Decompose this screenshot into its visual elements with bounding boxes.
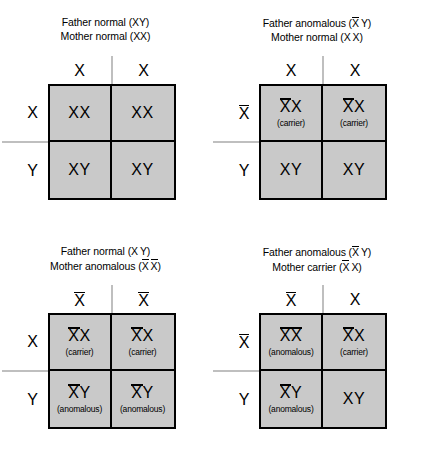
cell-sublabel: (carrier) xyxy=(340,119,368,128)
punnett-square: X X X Y XX (anomalous) XX (carrier) xyxy=(229,287,405,429)
punnett-square: X X X Y XX XX XY xyxy=(18,58,194,200)
column-header-2: X xyxy=(112,287,176,313)
punnett-cell: XY xyxy=(323,371,385,427)
overbar-allele: X xyxy=(68,327,79,344)
cell-genotype: XX xyxy=(280,327,302,344)
row-header-2: Y xyxy=(18,142,48,200)
punnett-cell: XX (carrier) xyxy=(261,86,323,142)
title-mother-line: Mother normal (X X) xyxy=(211,31,423,45)
overbar-allele: X xyxy=(239,334,250,351)
square-body: X Y XX (anomalous) XX (carrier) XY (anom… xyxy=(229,313,405,429)
cell-genotype: XX xyxy=(131,327,153,344)
overbar-allele: X xyxy=(280,384,291,401)
title-father-line: Father anomalous (X Y) xyxy=(211,16,423,31)
punnett-quadrant-father-anomalous-mother-carrier: Father anomalous (X Y) Mother carrier (X… xyxy=(211,229,423,458)
punnett-cell: XY xyxy=(323,142,385,198)
overbar-allele: X xyxy=(280,327,291,344)
row-header-1: X xyxy=(229,313,259,371)
row-header-1: X xyxy=(229,84,259,142)
cell-genotype: XY xyxy=(131,384,153,401)
punnett-cell: XX xyxy=(50,86,112,142)
row-header-1: X xyxy=(18,84,48,142)
square-body: X Y XX XX XY XY xyxy=(18,84,194,200)
row-header-2: Y xyxy=(229,371,259,429)
cell-sublabel: (anomalous) xyxy=(120,405,165,414)
overbar-allele: X xyxy=(291,327,302,344)
title-mother-line: Mother anomalous (X X) xyxy=(0,259,211,274)
cell-genotype: XY xyxy=(68,162,90,178)
punnett-cell: XX (carrier) xyxy=(323,315,385,371)
column-headers: X X xyxy=(259,287,387,313)
horizontal-axis-line xyxy=(213,371,261,372)
punnett-quadrant-father-normal-mother-anomalous: Father normal (X Y) Mother anomalous (X … xyxy=(0,229,211,458)
overbar-allele: X xyxy=(239,105,250,122)
square-box: XX XX XY XY xyxy=(48,84,176,200)
punnett-quadrant-father-anomalous-mother-normal: Father anomalous (X Y) Mother normal (X … xyxy=(211,0,423,229)
cell-genotype: XX xyxy=(68,327,90,344)
square-box: XX (carrier) XX (carrier) XY XY xyxy=(259,84,387,200)
title-father-line: Father anomalous (X Y) xyxy=(211,245,423,260)
column-header-2: X xyxy=(112,58,176,84)
column-header-2: X xyxy=(323,58,387,84)
column-header-1: X xyxy=(48,58,112,84)
title-mother-line: Mother carrier (X X) xyxy=(211,260,423,275)
row-header-1: X xyxy=(18,313,48,371)
punnett-cell: XY (anomalous) xyxy=(112,371,174,427)
square-body: X Y XX (carrier) XX (carrier) XY (anomal… xyxy=(18,313,194,429)
cell-genotype: XY xyxy=(131,162,153,178)
overbar-allele: X xyxy=(138,292,149,309)
square-box: XX (carrier) XX (carrier) XY (anomalous)… xyxy=(48,313,176,429)
overbar-allele: X xyxy=(286,292,297,309)
punnett-square: X X X Y XX (carrier) XX (carrier) xyxy=(229,58,405,200)
horizontal-axis-line xyxy=(213,142,261,143)
overbar-allele: X xyxy=(131,384,142,401)
quadrant-title: Father normal (X Y) Mother anomalous (X … xyxy=(0,245,211,273)
column-header-1: X xyxy=(48,287,112,313)
column-header-1: X xyxy=(259,58,323,84)
cell-genotype: XY xyxy=(343,162,365,178)
column-headers: X X xyxy=(48,287,176,313)
column-header-2: X xyxy=(323,287,387,313)
cell-sublabel: (anomalous) xyxy=(268,348,313,357)
punnett-cell: XX (anomalous) xyxy=(261,315,323,371)
quadrant-title: Father anomalous (X Y) Mother normal (X … xyxy=(211,16,423,44)
punnett-cell: XX xyxy=(112,86,174,142)
cell-genotype: XY xyxy=(280,384,302,401)
horizontal-axis-line xyxy=(2,371,50,372)
overbar-allele: X xyxy=(343,327,354,344)
row-header-2: Y xyxy=(229,142,259,200)
overbar-allele: X xyxy=(131,327,142,344)
punnett-cell: XY xyxy=(261,142,323,198)
overbar-allele: X xyxy=(343,98,354,115)
punnett-cell: XY xyxy=(50,142,112,198)
punnett-square-figure: Father normal (XY) Mother normal (XX) X … xyxy=(0,0,423,458)
cell-genotype: XY xyxy=(68,384,90,401)
cell-genotype: XX xyxy=(343,98,365,115)
vertical-axis-line xyxy=(111,285,112,313)
cell-genotype: XX xyxy=(131,105,153,121)
title-mother-line: Mother normal (XX) xyxy=(0,30,211,44)
overbar-allele: X xyxy=(74,292,85,309)
cell-sublabel: (carrier) xyxy=(129,348,157,357)
punnett-cell: XY xyxy=(112,142,174,198)
punnett-cell: XY (anomalous) xyxy=(261,371,323,427)
punnett-cell: XX (carrier) xyxy=(50,315,112,371)
overbar-allele: X xyxy=(151,259,158,274)
square-body: X Y XX (carrier) XX (carrier) XY xyxy=(229,84,405,200)
quadrant-title: Father normal (XY) Mother normal (XX) xyxy=(0,16,211,43)
overbar-allele: X xyxy=(68,384,79,401)
column-header-1: X xyxy=(259,287,323,313)
overbar-allele: X xyxy=(342,260,349,275)
cell-genotype: XY xyxy=(280,162,302,178)
title-father-line: Father normal (XY) xyxy=(0,16,211,30)
punnett-cell: XY (anomalous) xyxy=(50,371,112,427)
horizontal-axis-line xyxy=(2,142,50,143)
cell-genotype: XX xyxy=(68,105,90,121)
vertical-axis-line xyxy=(323,56,324,84)
cell-sublabel: (anomalous) xyxy=(268,405,313,414)
punnett-square: X X X Y XX (carrier) XX (carrier) xyxy=(18,287,194,429)
title-father-line: Father normal (X Y) xyxy=(0,245,211,259)
punnett-cell: XX (carrier) xyxy=(112,315,174,371)
overbar-allele: X xyxy=(352,16,359,31)
vertical-axis-line xyxy=(111,56,112,84)
